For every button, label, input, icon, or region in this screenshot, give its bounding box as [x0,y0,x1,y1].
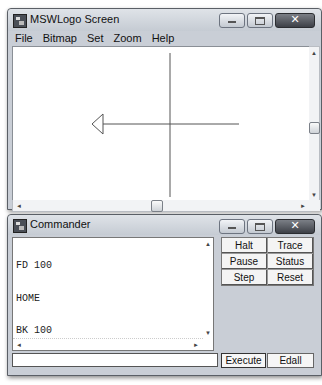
execute-button[interactable]: Execute [221,353,266,368]
turtle-canvas[interactable] [12,46,311,202]
scroll-down-arrow-icon[interactable]: ▼ [205,330,211,336]
canvas-horizontal-scrollbar[interactable]: ◄ ► [12,200,311,212]
scroll-left-arrow-icon[interactable]: ◄ [16,203,22,209]
mswlogo-screen-window: MSWLogo Screen ✕ File Bitmap Set Zoom He… [7,8,322,210]
menu-help[interactable]: Help [152,31,175,45]
step-button[interactable]: Step [222,270,267,285]
horizontal-scroll-thumb[interactable] [151,200,163,212]
history-line[interactable]: FD 100 [16,261,52,272]
close-icon: ✕ [276,13,314,26]
minimize-icon [228,227,236,229]
commander-maximize-button[interactable] [247,219,273,234]
menu-zoom[interactable]: Zoom [114,31,142,45]
menu-bar: File Bitmap Set Zoom Help [12,31,317,45]
canvas-vertical-scrollbar[interactable]: ▲ ▼ [309,46,320,202]
command-input[interactable] [12,353,218,367]
menu-set[interactable]: Set [87,31,104,45]
vertical-scroll-thumb[interactable] [309,122,320,134]
window-title: MSWLogo Screen [30,13,119,25]
pause-button[interactable]: Pause [222,254,267,269]
mswlogo-app-icon [13,14,27,28]
commander-close-button[interactable]: ✕ [275,219,315,234]
commander-app-icon [13,219,27,233]
history-line[interactable]: BK 100 [16,326,52,337]
resize-grip[interactable] [309,200,320,211]
scroll-right-arrow-icon[interactable]: ► [300,203,306,209]
menu-file[interactable]: File [15,31,33,45]
maximize-icon [255,17,265,25]
status-button[interactable]: Status [268,254,313,269]
screen-titlebar[interactable]: MSWLogo Screen ✕ [8,9,321,31]
close-icon: ✕ [276,219,314,232]
commander-titlebar[interactable]: Commander ✕ [8,215,321,235]
maximize-icon [255,223,265,231]
commander-minimize-button[interactable] [219,219,245,234]
halt-button[interactable]: Halt [222,238,267,253]
command-history-list[interactable]: FD 100 HOME BK 100 HOME RT 90 FD 100 HOM… [12,237,214,351]
turtle-drawing [13,47,310,201]
history-horizontal-scrollbar[interactable]: ◄ ► [13,338,203,350]
maximize-button[interactable] [247,13,273,28]
edall-button[interactable]: Edall [267,353,314,368]
trace-button[interactable]: Trace [268,238,313,253]
menu-bitmap[interactable]: Bitmap [43,31,77,45]
scroll-up-arrow-icon[interactable]: ▲ [205,241,211,247]
scroll-left-arrow-icon[interactable]: ◄ [16,342,22,348]
minimize-button[interactable] [219,13,245,28]
commander-button-grid: Halt Trace Pause Status Step Reset [221,237,314,286]
close-button[interactable]: ✕ [275,13,315,28]
scroll-right-arrow-icon[interactable]: ► [193,342,199,348]
scroll-down-arrow-icon[interactable]: ▼ [311,192,317,198]
turtle-icon [92,114,103,134]
history-vertical-scrollbar[interactable]: ▲ ▼ [203,238,213,338]
scroll-up-arrow-icon[interactable]: ▲ [311,50,317,56]
commander-title: Commander [30,218,91,230]
reset-button[interactable]: Reset [268,270,313,285]
history-line[interactable]: HOME [16,294,52,305]
minimize-icon [228,21,236,23]
commander-window: Commander ✕ FD 100 HOME BK 100 HOME RT 9… [7,214,322,376]
